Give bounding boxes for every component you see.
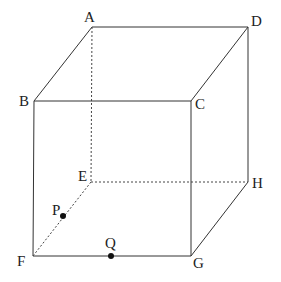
vertex-label-F: F <box>17 254 25 269</box>
vertex-label-B: B <box>19 94 29 109</box>
point-label-P: P <box>52 203 60 218</box>
edge-GH <box>191 182 248 256</box>
hidden-edge-AE <box>91 27 92 182</box>
edge-AB <box>34 27 92 101</box>
cube-drawing <box>0 0 281 282</box>
point-Q-dot <box>108 253 114 259</box>
point-label-Q: Q <box>105 236 116 251</box>
vertex-label-A: A <box>84 10 95 25</box>
vertex-label-C: C <box>195 97 205 112</box>
edge-CD <box>191 27 248 101</box>
edge-BF <box>33 101 34 256</box>
vertex-label-G: G <box>193 256 204 271</box>
vertex-label-E: E <box>78 169 87 184</box>
vertex-label-H: H <box>252 176 263 191</box>
point-P-dot <box>60 213 66 219</box>
hidden-edge-EF <box>33 182 91 256</box>
vertex-label-D: D <box>251 14 262 29</box>
cube-diagram: A D B C E H P Q F G <box>0 0 281 282</box>
